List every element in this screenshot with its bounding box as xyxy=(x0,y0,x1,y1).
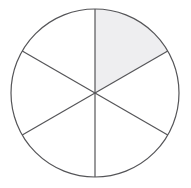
pie-chart-svg xyxy=(0,0,191,188)
fraction-circle-diagram xyxy=(0,0,191,188)
